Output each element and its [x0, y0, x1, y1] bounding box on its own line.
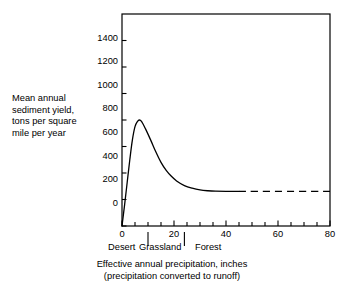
x-axis-ticks	[122, 221, 330, 227]
plot-area	[0, 0, 344, 284]
sediment-yield-curve	[122, 120, 239, 226]
plot-frame	[122, 14, 330, 226]
chart-figure: Mean annual sediment yield, tons per squ…	[0, 0, 344, 284]
zone-boundary-ticks	[148, 232, 184, 246]
